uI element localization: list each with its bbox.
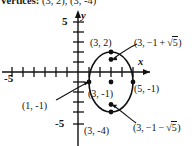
y-tick-label-5: 5 (62, 16, 68, 27)
x-axis-label: x (138, 57, 143, 68)
label-left-vertex: (1, -1) (22, 101, 47, 111)
label-center: (3, -1) (88, 89, 113, 99)
label-right-vertex: (5, -1) (134, 84, 159, 94)
x-axis (2, 69, 150, 75)
point-bottom-vertex (109, 110, 114, 115)
leader-left-vertex (56, 81, 89, 100)
point-left-vertex (87, 80, 92, 85)
ellipse-figure: Vertices: (3, 2), (3, -4) (0, 0, 195, 146)
label-bottom-vertex: (3, -4) (84, 126, 109, 136)
point-center (109, 80, 114, 85)
plotted-points (87, 50, 136, 115)
y-axis-label: y (81, 11, 86, 22)
label-top-vertex: (3, 2) (90, 38, 112, 48)
label-upper-focus: (3, −1 + √5) (134, 38, 181, 48)
y-tick-label-minus5: -5 (55, 118, 64, 129)
label-lower-focus: (3, −1 − √5) (133, 123, 180, 133)
y-axis (75, 10, 81, 146)
point-top-vertex (109, 50, 114, 55)
x-tick-label-minus5: -5 (4, 73, 13, 84)
point-lower-focus (109, 102, 114, 107)
